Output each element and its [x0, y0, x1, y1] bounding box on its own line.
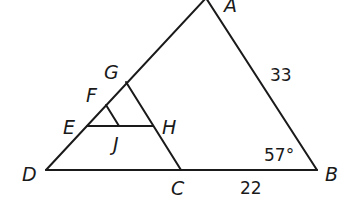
length-AB: 33 — [270, 65, 292, 85]
segment-DA — [46, 0, 206, 170]
label-D: D — [22, 163, 37, 185]
label-A: A — [222, 0, 237, 16]
angle-B: 57° — [264, 145, 294, 165]
label-G: G — [104, 61, 119, 83]
length-CB: 22 — [240, 178, 262, 198]
segment-FJ — [106, 105, 119, 126]
label-F: F — [86, 84, 98, 106]
label-J: J — [109, 133, 119, 155]
segment-AB — [206, 0, 317, 170]
label-H: H — [162, 116, 176, 138]
label-C: C — [171, 177, 185, 199]
label-E: E — [63, 116, 75, 138]
label-B: B — [325, 163, 338, 185]
triangle-diagram: A B C D E F G H J 33 22 57° — [0, 0, 363, 214]
